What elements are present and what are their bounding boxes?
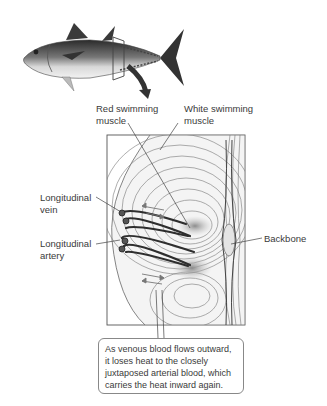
muscle-cross-section [102, 134, 254, 328]
label-line: Red swimming [96, 103, 158, 115]
label-red-swimming-muscle: Red swimming muscle [96, 103, 158, 126]
callout-line: it loses heat to the closely [105, 355, 237, 367]
label-line: vein [40, 204, 91, 216]
label-longitudinal-vein: Longitudinal vein [40, 192, 91, 215]
explanation-callout: As venous blood flows outward, it loses … [98, 338, 244, 394]
callout-line: carries the heat inward again. [105, 379, 237, 391]
label-longitudinal-artery: Longitudinal artery [40, 238, 91, 261]
label-line: Longitudinal [40, 238, 91, 250]
label-line: White swimming [184, 103, 253, 115]
label-backbone: Backbone [264, 233, 306, 245]
tuna-fish-illustration [24, 23, 185, 99]
label-white-swimming-muscle: White swimming muscle [184, 103, 253, 126]
label-line: muscle [96, 115, 158, 127]
label-line: muscle [184, 115, 253, 127]
callout-line: As venous blood flows outward, [105, 343, 237, 355]
label-line: artery [40, 250, 91, 262]
callout-line: juxtaposed arterial blood, which [105, 367, 237, 379]
label-line: Longitudinal [40, 192, 91, 204]
